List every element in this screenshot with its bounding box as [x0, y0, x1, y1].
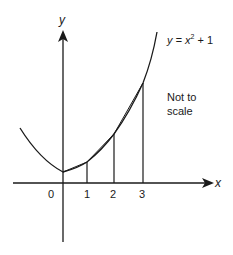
- equation-label: y = x2 + 1: [166, 33, 213, 46]
- tick-2: 2: [110, 188, 116, 200]
- tick-0: 0: [48, 188, 54, 200]
- y-axis-label: y: [58, 13, 66, 27]
- chords: [63, 83, 143, 172]
- tick-1: 1: [84, 188, 90, 200]
- x-axis-label: x: [214, 176, 222, 190]
- note-line-1: Not to: [167, 91, 196, 103]
- curve: [20, 32, 157, 172]
- note-line-2: scale: [167, 105, 193, 117]
- diagram: y x 0 1 2 3 y = x2 + 1 Not to scale: [0, 0, 233, 255]
- tick-3: 3: [139, 188, 145, 200]
